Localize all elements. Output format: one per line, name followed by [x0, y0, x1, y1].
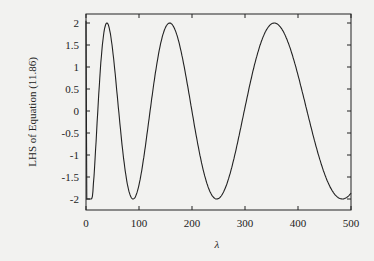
data-line [86, 21, 351, 199]
x-tick-label: 0 [83, 217, 89, 229]
y-tick-label: -0.5 [62, 127, 80, 139]
x-axis-label: λ [214, 238, 220, 250]
y-axis-label: LHS of Equation (11.86) [26, 57, 39, 167]
y-tick-label: 1 [74, 61, 80, 73]
y-axis-ticks: 21.510.50-0.5-1-1.5-2 [62, 17, 351, 205]
y-tick-label: 2 [74, 17, 80, 29]
y-tick-label: -1.5 [62, 171, 80, 183]
x-tick-label: 100 [131, 217, 148, 229]
y-tick-label: 1.5 [65, 39, 79, 51]
y-tick-label: 0.5 [65, 83, 79, 95]
chart: 0100200300400500 21.510.50-0.5-1-1.5-2 λ… [0, 0, 374, 261]
x-tick-label: 400 [290, 217, 307, 229]
x-axis-ticks: 0100200300400500 [83, 14, 360, 229]
y-tick-label: -1 [70, 149, 79, 161]
plot-frame [86, 14, 351, 210]
x-tick-label: 200 [184, 217, 201, 229]
y-tick-label: -2 [70, 193, 79, 205]
x-tick-label: 300 [237, 217, 254, 229]
y-tick-label: 0 [74, 105, 80, 117]
x-tick-label: 500 [343, 217, 360, 229]
